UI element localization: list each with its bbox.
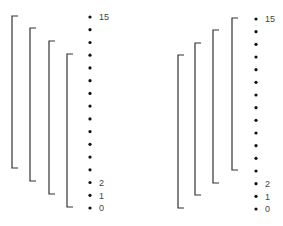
index-label: 0 <box>265 204 270 214</box>
dot-3 <box>254 169 257 172</box>
dot-5 <box>88 143 91 146</box>
dot-8 <box>88 105 91 108</box>
dot-2 <box>254 182 257 185</box>
index-label: 2 <box>265 179 270 189</box>
dot-15 <box>88 15 91 18</box>
dot-4 <box>88 156 91 159</box>
dot-12 <box>254 55 257 58</box>
bracket <box>30 28 36 181</box>
bracket <box>49 41 55 194</box>
right-panel: 15210 <box>178 14 275 214</box>
index-label: 0 <box>99 203 104 213</box>
dot-4 <box>254 157 257 160</box>
bracket <box>195 43 201 195</box>
dot-6 <box>88 130 91 133</box>
dot-13 <box>88 41 91 44</box>
dot-0 <box>254 207 257 210</box>
dot-11 <box>254 68 257 71</box>
bracket <box>67 54 73 207</box>
index-label: 15 <box>265 14 275 24</box>
dot-15 <box>254 17 257 20</box>
dot-1 <box>88 194 91 197</box>
dot-14 <box>88 28 91 31</box>
bracket <box>213 30 219 183</box>
dot-8 <box>254 106 257 109</box>
dot-10 <box>88 79 91 82</box>
dot-9 <box>88 92 91 95</box>
index-label: 1 <box>265 192 270 202</box>
bracket <box>178 55 184 208</box>
dot-9 <box>254 93 257 96</box>
dot-3 <box>88 168 91 171</box>
dot-14 <box>254 30 257 33</box>
bracket <box>232 18 238 170</box>
bracket-diagram: 15210 15210 <box>0 0 283 226</box>
dot-6 <box>254 131 257 134</box>
dot-12 <box>88 54 91 57</box>
dot-7 <box>88 117 91 120</box>
dot-13 <box>254 43 257 46</box>
dot-10 <box>254 81 257 84</box>
dot-1 <box>254 195 257 198</box>
index-label: 1 <box>99 191 104 201</box>
dot-2 <box>88 181 91 184</box>
bracket <box>12 16 18 168</box>
dot-5 <box>254 144 257 147</box>
index-label: 15 <box>99 12 109 22</box>
dot-0 <box>88 206 91 209</box>
dot-11 <box>88 66 91 69</box>
left-panel: 15210 <box>12 12 109 213</box>
dot-7 <box>254 119 257 122</box>
index-label: 2 <box>99 178 104 188</box>
